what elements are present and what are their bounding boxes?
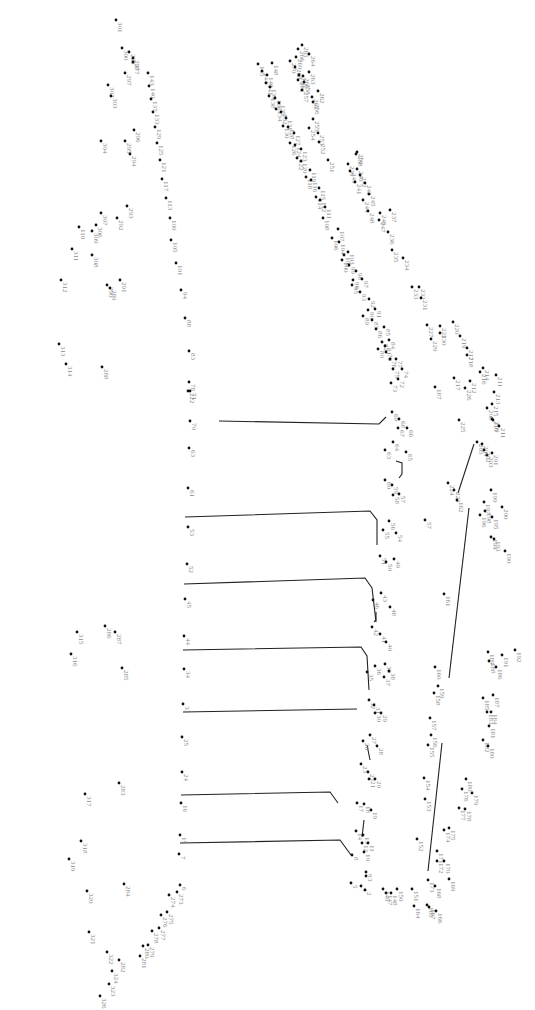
- dot-marker: [86, 890, 89, 893]
- dot-marker: [411, 286, 414, 289]
- dot-number-label: 188: [489, 663, 497, 674]
- dot-number-label: 33: [183, 706, 191, 714]
- dot-marker: [488, 725, 491, 728]
- dot-marker: [411, 888, 414, 891]
- dot-marker: [483, 501, 486, 504]
- dot-marker: [374, 308, 377, 311]
- dot-marker: [187, 487, 190, 490]
- dot-number-label: 252: [319, 144, 327, 155]
- dot-marker: [368, 699, 371, 702]
- dot-213: 213: [493, 391, 502, 405]
- dot-number-label: 169: [449, 881, 457, 892]
- dot-marker: [436, 850, 439, 853]
- dot-marker: [160, 914, 163, 917]
- dot-number-label: 6: [180, 887, 188, 891]
- dot-68: 68: [398, 418, 407, 429]
- dot-number-label: 281: [140, 958, 148, 969]
- dot-marker: [389, 606, 392, 609]
- dot-25: 25: [181, 736, 190, 747]
- dot-marker: [492, 419, 495, 422]
- dot-marker: [453, 377, 456, 380]
- dot-marker: [302, 75, 305, 78]
- dot-number-label: 53: [188, 529, 196, 537]
- dot-number-label: 153: [425, 801, 433, 812]
- dot-marker: [376, 745, 379, 748]
- dot-marker: [383, 326, 386, 329]
- dot-marker: [78, 226, 81, 229]
- dot-52: 52: [186, 563, 195, 574]
- dot-marker: [416, 838, 419, 841]
- dot-number-label: 175: [449, 830, 457, 841]
- dot-164: 164: [413, 905, 422, 919]
- dot-number-label: 311: [72, 251, 80, 262]
- dot-323: 323: [108, 983, 117, 997]
- dot-66: 66: [406, 427, 415, 438]
- dot-number-label: 8: [352, 857, 360, 861]
- dot-marker: [181, 736, 184, 739]
- dot-marker: [377, 348, 380, 351]
- line-arm-2: [185, 511, 377, 545]
- dot-225: 225: [458, 419, 467, 433]
- dot-264: 264: [308, 53, 317, 67]
- dot-number-label: 15: [180, 837, 188, 845]
- dot-220: 220: [452, 321, 461, 335]
- dot-marker: [178, 853, 181, 856]
- dot-40: 40: [385, 641, 394, 652]
- dot-marker: [439, 332, 442, 335]
- dot-64: 64: [392, 441, 401, 452]
- dot-marker: [491, 452, 494, 455]
- dot-number-label: 40: [386, 644, 394, 652]
- dot-marker: [392, 368, 395, 371]
- dot-57: 57: [398, 493, 407, 504]
- dot-number-label: 295: [125, 143, 133, 154]
- dot-number-label: 36: [375, 668, 383, 676]
- dot-marker: [385, 561, 388, 564]
- dot-number-label: 313: [59, 346, 67, 357]
- dot-178: 178: [464, 808, 473, 822]
- dot-number-label: 48: [390, 609, 398, 617]
- dot-marker: [354, 181, 357, 184]
- dot-marker: [322, 217, 325, 220]
- dot-45: 45: [184, 598, 193, 609]
- dot-5: 5: [350, 882, 359, 889]
- dot-marker: [406, 427, 409, 430]
- dot-297: 297: [124, 72, 133, 86]
- dot-78: 78: [188, 381, 197, 392]
- dot-marker: [121, 667, 124, 670]
- dot-marker: [501, 654, 504, 657]
- dot-marker: [401, 368, 404, 371]
- dot-marker: [435, 910, 438, 913]
- dot-marker: [282, 125, 285, 128]
- dot-185: 185: [482, 697, 491, 711]
- dot-marker: [129, 153, 132, 156]
- dot-marker: [100, 140, 103, 143]
- dot-number-label: 312: [61, 282, 69, 293]
- dot-number-label: 54: [396, 535, 404, 543]
- dot-marker: [382, 529, 385, 532]
- dot-marker: [303, 81, 306, 84]
- dot-marker: [447, 482, 450, 485]
- dot-marker: [453, 489, 456, 492]
- dot-marker: [501, 506, 504, 509]
- dot-marker: [359, 291, 362, 294]
- dot-20: 20: [374, 778, 383, 789]
- dot-283: 283: [118, 782, 127, 796]
- dot-number-label: 94: [181, 292, 189, 300]
- dot-15: 15: [179, 834, 188, 845]
- dot-marker: [311, 96, 314, 99]
- dot-marker: [392, 441, 395, 444]
- dot-151: 151: [411, 888, 420, 902]
- dot-marker: [458, 419, 461, 422]
- dot-63b: 63: [384, 449, 393, 460]
- line-arm-1: [219, 417, 386, 424]
- dot-200: 200: [501, 506, 510, 520]
- dot-marker: [370, 809, 373, 812]
- dot-number-label: 297: [125, 75, 133, 86]
- dot-number-label: 254: [309, 130, 317, 141]
- dot-marker: [95, 224, 98, 227]
- dot-marker: [361, 842, 364, 845]
- dot-156: 156: [430, 734, 439, 748]
- dot-marker: [437, 685, 440, 688]
- dot-number-label: 104: [339, 244, 347, 255]
- dot-marker: [426, 324, 429, 327]
